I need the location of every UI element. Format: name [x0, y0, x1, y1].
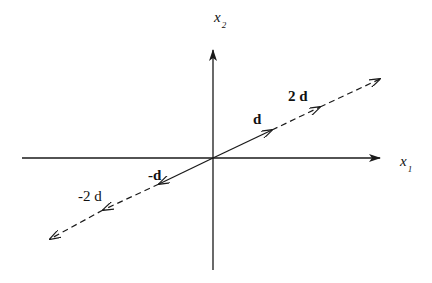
diagram-canvas: [0, 0, 432, 283]
vector-2d: [272, 107, 320, 130]
label-d: d: [253, 112, 261, 127]
label-neg-2d: -2 d: [78, 189, 102, 204]
vector-d: [213, 130, 272, 158]
label-neg-d: -d: [148, 168, 161, 183]
x1-axis-label: x1: [400, 154, 411, 169]
vector-2d-tail: [320, 79, 380, 107]
label-2d: 2 d: [288, 89, 308, 104]
vector-neg-d: [159, 158, 213, 184]
vector-neg-2d: [103, 184, 159, 210]
vector-neg-2d-tail: [50, 210, 103, 239]
x2-axis-label: x2: [214, 10, 225, 25]
